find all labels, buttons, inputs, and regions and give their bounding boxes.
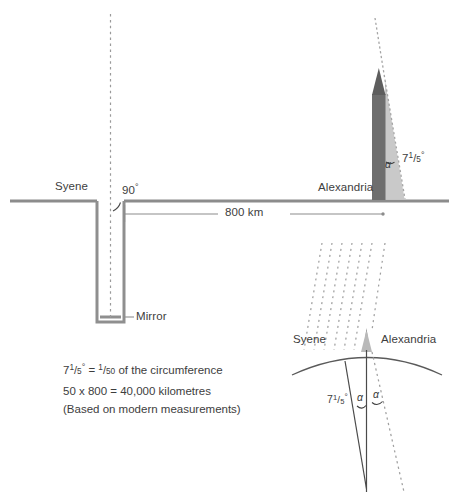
lower-alpha-left-arc xyxy=(357,406,366,409)
radius-syene xyxy=(345,361,367,489)
obelisk-alpha-label: α xyxy=(385,158,391,170)
lower-alpha-left-label: α xyxy=(357,391,363,403)
right-angle-label: 90° xyxy=(122,182,139,196)
syene-label-lower: Syene xyxy=(293,333,326,345)
notes-line-3: (Based on modern measurements) xyxy=(63,400,241,419)
diagram-canvas: Syene 90° Mirror 800 km Alexandria α 71/… xyxy=(0,0,459,501)
distance-tick-right xyxy=(381,212,384,215)
sun-ray-incoming-dotted xyxy=(375,18,385,80)
right-angle-arc xyxy=(113,203,121,212)
notes-block: 71/5° = 1/50 of the circumference 50 x 8… xyxy=(63,358,241,419)
earth-obelisk-shadow xyxy=(361,330,372,352)
mirror-label: Mirror xyxy=(136,310,167,322)
notes-line-2: 50 x 800 = 40,000 kilometres xyxy=(63,382,241,401)
ray-extension-dotted xyxy=(372,352,404,492)
lower-alpha-right-label: α xyxy=(373,388,379,400)
obelisk-shaft xyxy=(372,94,386,200)
obelisk-angle-value: 71/5° xyxy=(402,150,425,164)
distance-label: 800 km xyxy=(225,206,263,218)
diagram-vector-layer xyxy=(0,0,459,501)
lower-alpha-right-arc xyxy=(372,402,383,405)
notes-line-1: 71/5° = 1/50 of the circumference xyxy=(63,358,241,382)
syene-label-upper: Syene xyxy=(55,180,88,192)
alexandria-label-upper: Alexandria xyxy=(318,181,373,193)
alexandria-label-lower: Alexandria xyxy=(381,333,436,345)
lower-angle-value: 71/5° xyxy=(327,393,348,406)
